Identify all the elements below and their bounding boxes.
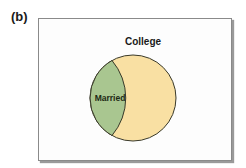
married-label: Married	[95, 93, 126, 103]
venn-diagram: College Married	[0, 0, 246, 168]
college-label: College	[125, 36, 162, 47]
